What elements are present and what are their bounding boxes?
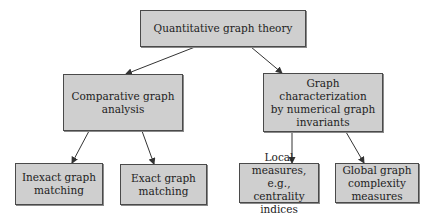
- node-label: Inexact graph matching: [22, 171, 96, 197]
- edge-comparative-inexact: [72, 131, 89, 163]
- node-label: Comparative graph analysis: [71, 90, 174, 116]
- node-local-measures: Local measures, e.g., centrality indices: [239, 163, 319, 203]
- edge-root-comparative: [126, 47, 195, 74]
- diagram-canvas: Quantitative graph theory Comparative gr…: [0, 0, 430, 217]
- edge-comparative-exact: [142, 131, 154, 164]
- node-quantitative-graph-theory: Quantitative graph theory: [140, 10, 306, 47]
- node-comparative-graph-analysis: Comparative graph analysis: [63, 74, 183, 131]
- node-label: Exact graph matching: [131, 172, 196, 198]
- node-global-complexity-measures: Global graph complexity measures: [335, 163, 419, 203]
- node-label: Global graph complexity measures: [342, 164, 411, 203]
- node-graph-characterization: Graph characterization by numerical grap…: [263, 73, 383, 132]
- edge-characterization-global: [346, 132, 364, 163]
- node-label: Quantitative graph theory: [154, 22, 293, 35]
- node-label: Local measures, e.g., centrality indices: [244, 151, 314, 216]
- edge-root-characterization: [251, 47, 282, 73]
- node-exact-graph-matching: Exact graph matching: [120, 164, 207, 205]
- node-label: Graph characterization by numerical grap…: [268, 77, 378, 129]
- node-inexact-graph-matching: Inexact graph matching: [15, 163, 103, 205]
